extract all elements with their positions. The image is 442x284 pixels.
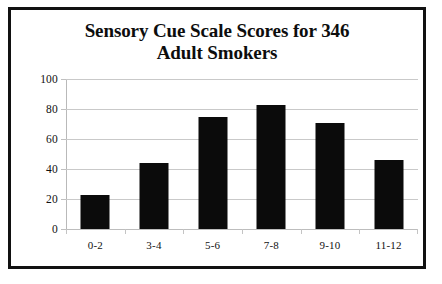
- y-axis-label: 20: [46, 193, 58, 205]
- bar: [257, 105, 286, 230]
- chart-figure: Sensory Cue Scale Scores for 346 Adult S…: [8, 7, 426, 269]
- x-axis-label: 9-10: [301, 239, 360, 251]
- x-tick: [242, 229, 243, 234]
- bar-slot: 11-12: [359, 79, 418, 229]
- bar-slot: 5-6: [183, 79, 242, 229]
- y-axis-label: 0: [52, 223, 58, 235]
- bar: [374, 160, 403, 229]
- x-tick: [359, 229, 360, 234]
- bar-slot: 9-10: [301, 79, 360, 229]
- y-axis-label: 80: [46, 103, 58, 115]
- x-axis-label: 5-6: [183, 239, 242, 251]
- y-axis-label: 60: [46, 133, 58, 145]
- bar-slot: 0-2: [66, 79, 125, 229]
- x-tick: [301, 229, 302, 234]
- bar: [139, 163, 168, 229]
- x-axis-label: 3-4: [125, 239, 184, 251]
- plot-area: 020406080100 0-23-45-67-89-1011-12: [66, 79, 418, 229]
- chart-title-line-2: Adult Smokers: [11, 42, 423, 64]
- x-tick: [125, 229, 126, 234]
- chart-title-line-1: Sensory Cue Scale Scores for 346: [11, 20, 423, 42]
- y-axis-label: 100: [40, 73, 58, 85]
- bar: [198, 117, 227, 230]
- bar-slot: 7-8: [242, 79, 301, 229]
- x-tick: [417, 229, 418, 234]
- bar-slot: 3-4: [125, 79, 184, 229]
- x-tick: [183, 229, 184, 234]
- x-axis-label: 7-8: [242, 239, 301, 251]
- x-tick: [66, 229, 67, 234]
- x-axis-label: 0-2: [66, 239, 125, 251]
- bar: [81, 195, 110, 230]
- bar-series: 0-23-45-67-89-1011-12: [66, 79, 418, 229]
- x-axis-label: 11-12: [359, 239, 418, 251]
- y-axis-label: 40: [46, 163, 58, 175]
- bar: [315, 123, 344, 230]
- chart-title: Sensory Cue Scale Scores for 346 Adult S…: [11, 20, 423, 64]
